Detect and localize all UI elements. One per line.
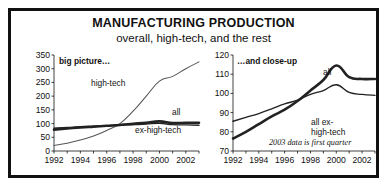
chart-frame: MANUFACTURING PRODUCTION overall, high-t… — [8, 8, 379, 178]
x-tick-label: 1992 — [223, 155, 242, 165]
series-label-all: all — [323, 67, 332, 77]
x-tick-label: 1996 — [275, 155, 294, 165]
x-tick-label: 1994 — [249, 155, 268, 165]
y-tick-label: 120 — [215, 50, 230, 60]
x-tick-label: 2000 — [150, 155, 169, 165]
series-line-all-ex-high-tech — [233, 85, 375, 122]
series-line-all — [233, 66, 375, 139]
x-tick-label: 1998 — [301, 155, 320, 165]
y-tick-label: 150 — [36, 105, 51, 115]
panel-label: big picture… — [59, 56, 110, 66]
y-tick-label: 50 — [40, 132, 50, 142]
y-tick-label: 250 — [36, 77, 51, 87]
page-subtitle: overall, high-tech, and the rest — [11, 32, 376, 44]
y-tick-label: 350 — [36, 50, 51, 60]
x-tick-label: 1996 — [97, 155, 116, 165]
y-tick-label: 200 — [36, 91, 51, 101]
page-title: MANUFACTURING PRODUCTION — [11, 16, 376, 30]
x-tick-label: 1992 — [44, 155, 63, 165]
chart-panel-close-up: 708090100110120199219941996199820002002…… — [207, 47, 379, 173]
series-label-all-ex-high-tech-2: high-tech — [311, 127, 346, 137]
y-tick-label: 80 — [219, 127, 229, 137]
y-tick-label: 100 — [215, 88, 230, 98]
x-tick-label: 2002 — [353, 155, 372, 165]
y-tick-label: 300 — [36, 64, 51, 74]
panel-label: …and close-up — [237, 56, 297, 66]
y-tick-label: 110 — [215, 69, 229, 79]
y-tick-label: 100 — [36, 119, 51, 129]
x-tick-label: 1998 — [124, 155, 143, 165]
y-tick-label: 90 — [219, 108, 229, 118]
x-tick-label: 2002 — [176, 155, 195, 165]
x-tick-label: 2000 — [327, 155, 346, 165]
series-label-all: all — [172, 107, 181, 117]
chart-annotation: 2003 data is first quarter — [269, 138, 352, 147]
series-label-high-tech: high-tech — [91, 78, 126, 88]
big-picture-chart: 0501001502002503003501992199419961998200… — [25, 47, 203, 173]
x-tick-label: 1994 — [71, 155, 90, 165]
close-up-chart: 708090100110120199219941996199820002002…… — [207, 47, 379, 173]
series-label-all-ex-high-tech-1: all ex- — [311, 117, 334, 127]
chart-panel-big-picture: 0501001502002503003501992199419961998200… — [25, 47, 203, 173]
series-label-ex-high-tech: ex-high-tech — [135, 125, 181, 135]
